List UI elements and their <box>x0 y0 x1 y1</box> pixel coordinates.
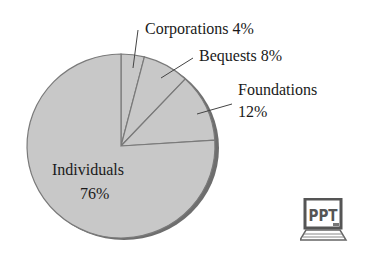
ppt-computer-icon: PPT <box>300 198 350 242</box>
label-corporations: Corporations 4% <box>145 20 254 38</box>
label-bequests: Bequests 8% <box>199 47 282 65</box>
label-foundations: Foundations <box>238 81 317 99</box>
label-individuals: Individuals <box>52 161 124 179</box>
ppt-text: PPT <box>309 207 339 225</box>
label-foundations-value: 12% <box>238 103 267 121</box>
pie-slices <box>27 54 215 238</box>
label-individuals-value: 76% <box>80 185 109 203</box>
